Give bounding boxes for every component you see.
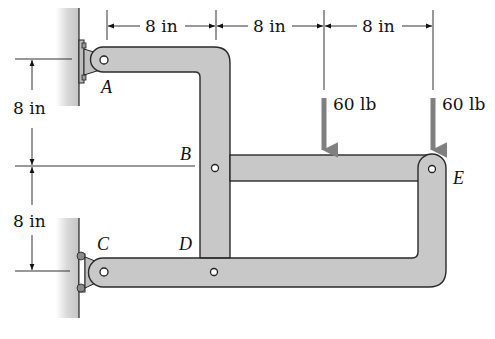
pin-b: [212, 165, 219, 172]
pin-a: [100, 56, 108, 64]
frame-svg: 8 in 8 in 8 in 8 in 8 in 60 lb 60 lb A B…: [0, 0, 495, 339]
dim-label-right: 8 in: [362, 16, 395, 36]
dim-label-mid: 8 in: [253, 16, 286, 36]
point-label-b: B: [180, 144, 191, 164]
dim-label-upper: 8 in: [13, 98, 46, 118]
pin-c: [100, 268, 108, 276]
pin-e: [429, 166, 436, 173]
load-label-2: 60 lb: [442, 94, 485, 114]
point-label-a: A: [100, 77, 113, 97]
point-label-e: E: [452, 168, 464, 188]
frame-diagram: 8 in 8 in 8 in 8 in 8 in 60 lb 60 lb A B…: [0, 0, 495, 339]
point-label-d: D: [178, 234, 192, 254]
wall-bottom: [56, 218, 79, 318]
load-label-1: 60 lb: [333, 94, 376, 114]
dim-label-ab: 8 in: [145, 16, 178, 36]
wall-top: [56, 8, 79, 106]
member-be: [230, 155, 430, 181]
point-label-c: C: [97, 234, 110, 254]
dim-label-lower: 8 in: [13, 211, 46, 231]
pin-d: [211, 269, 218, 276]
